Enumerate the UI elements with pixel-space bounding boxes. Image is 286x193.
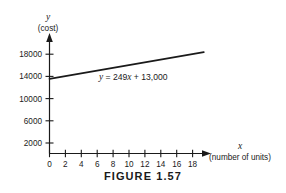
x-tick-label-10: 10 — [124, 160, 134, 169]
x-tick-label-12: 12 — [140, 160, 150, 169]
y-tick-label-6000: 6000 — [24, 117, 43, 126]
cost-line-chart: 18000 14000 10000 6000 2000 0 2 4 6 8 10… — [0, 0, 286, 193]
x-tick-label-8: 8 — [111, 160, 116, 169]
x-tick-label-4: 4 — [79, 160, 84, 169]
figure-container: 18000 14000 10000 6000 2000 0 2 4 6 8 10… — [0, 0, 286, 193]
x-tick-label-2: 2 — [63, 160, 68, 169]
x-tick-label-0: 0 — [47, 160, 52, 169]
equation-intercept: + 13,000 — [131, 72, 167, 82]
x-axis-variable-label: x — [237, 141, 243, 151]
x-axis-unit-label: (number of units) — [209, 153, 271, 162]
y-axis-unit-label: (cost) — [38, 24, 59, 33]
y-tick-label-14000: 14000 — [19, 72, 42, 81]
x-tick-label-14: 14 — [156, 160, 166, 169]
y-axis-variable-label: y — [45, 12, 51, 22]
y-tick-label-18000: 18000 — [19, 50, 42, 59]
y-tick-label-2000: 2000 — [24, 139, 43, 148]
x-tick-label-16: 16 — [172, 160, 182, 169]
y-tick-label-10000: 10000 — [19, 95, 42, 104]
x-tick-label-6: 6 — [95, 160, 100, 169]
x-tick-label-18: 18 — [188, 160, 198, 169]
equation-operator-slope: = 249 — [103, 72, 127, 82]
y-axis-arrow-icon — [46, 33, 53, 42]
figure-caption: FIGURE 1.57 — [0, 170, 286, 182]
equation-annotation: y = 249x + 13,000 — [98, 72, 168, 82]
